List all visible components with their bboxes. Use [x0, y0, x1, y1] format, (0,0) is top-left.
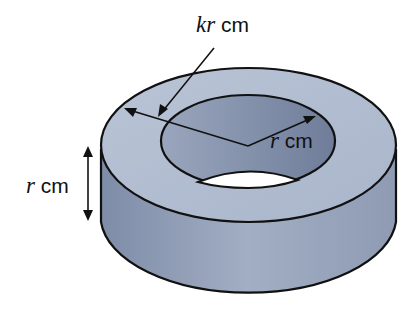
height-arrowhead-top — [83, 146, 93, 157]
outer-radius-var: kr — [196, 12, 215, 37]
height-arrowhead-bottom — [83, 210, 93, 221]
height-unit: cm — [41, 174, 69, 197]
inner-radius-label: r cm — [270, 128, 313, 154]
height-var: r — [26, 173, 35, 198]
height-label: r cm — [26, 173, 69, 199]
inner-radius-var: r — [270, 128, 279, 153]
outer-radius-unit: cm — [221, 13, 249, 36]
inner-radius-unit: cm — [285, 129, 313, 152]
outer-radius-label: kr cm — [196, 12, 249, 38]
hollow-cylinder-figure — [0, 0, 417, 311]
